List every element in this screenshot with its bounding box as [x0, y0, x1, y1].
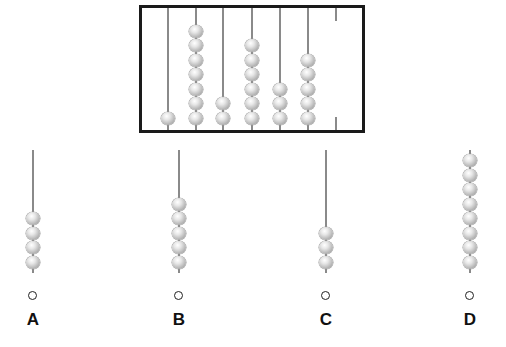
abacus-bead — [161, 112, 175, 125]
abacus-bead — [245, 83, 259, 96]
option-label-d[interactable]: D — [460, 310, 480, 330]
abacus-bead — [245, 39, 259, 52]
abacus-rod — [335, 117, 337, 130]
abacus-bead — [189, 97, 203, 110]
abacus-bead — [189, 39, 203, 52]
abacus-bead — [245, 54, 259, 67]
option-bead — [463, 169, 477, 182]
option-bead — [463, 198, 477, 211]
option-label-b[interactable]: B — [169, 310, 189, 330]
option-bead — [26, 212, 40, 225]
option-bead — [463, 227, 477, 240]
abacus-bead — [273, 83, 287, 96]
abacus-bead — [273, 97, 287, 110]
abacus-bead — [189, 68, 203, 81]
abacus-bead — [301, 112, 315, 125]
abacus-bead — [245, 68, 259, 81]
option-bead — [172, 227, 186, 240]
option-bead — [172, 212, 186, 225]
abacus-bead — [216, 112, 230, 125]
option-bead — [172, 256, 186, 269]
abacus-bead — [301, 54, 315, 67]
option-radio-d[interactable] — [465, 291, 474, 300]
abacus-bead — [301, 68, 315, 81]
option-bead — [26, 227, 40, 240]
option-bead — [319, 227, 333, 240]
abacus-bead — [245, 97, 259, 110]
option-bead — [26, 256, 40, 269]
option-bead — [172, 198, 186, 211]
option-radio-b[interactable] — [174, 291, 183, 300]
option-bead — [26, 241, 40, 254]
abacus-bead — [245, 112, 259, 125]
option-radio-a[interactable] — [28, 291, 37, 300]
abacus-bead — [216, 97, 230, 110]
abacus-bead — [189, 54, 203, 67]
option-bead — [319, 241, 333, 254]
option-label-a[interactable]: A — [23, 310, 43, 330]
abacus-rod-partial-top — [335, 8, 337, 21]
abacus-bead — [301, 97, 315, 110]
option-rod-c — [325, 150, 327, 273]
option-bead — [319, 256, 333, 269]
option-bead — [463, 154, 477, 167]
option-bead — [463, 183, 477, 196]
abacus-bead — [189, 83, 203, 96]
abacus-bead — [273, 112, 287, 125]
abacus-bead — [189, 25, 203, 38]
abacus-bead — [189, 112, 203, 125]
abacus-frame — [139, 5, 365, 133]
option-bead — [463, 256, 477, 269]
abacus-bead — [301, 83, 315, 96]
option-bead — [172, 241, 186, 254]
option-bead — [463, 241, 477, 254]
option-bead — [463, 212, 477, 225]
option-radio-c[interactable] — [321, 291, 330, 300]
option-label-c[interactable]: C — [316, 310, 336, 330]
